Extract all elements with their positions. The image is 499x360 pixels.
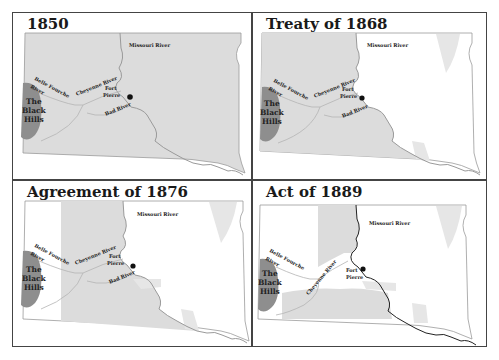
south-dakota-map — [252, 13, 489, 180]
panel-title: Act of 1889 — [266, 183, 362, 201]
label-fort: Fort — [346, 267, 358, 273]
map-panel-agreement-1876: Agreement of 1876 Missouri River Belle F… — [13, 181, 250, 348]
panel-title: 1850 — [27, 15, 69, 33]
fort-pierre-marker — [127, 94, 133, 100]
fort-pierre-marker — [360, 266, 365, 271]
label-fort: Fort — [109, 253, 121, 259]
bh-line-2: Black — [258, 278, 282, 287]
bh-line-3: Hills — [260, 117, 284, 126]
panel-title: Treaty of 1868 — [266, 15, 388, 33]
bh-line-3: Hills — [22, 283, 46, 292]
bh-line-1: The — [260, 99, 284, 108]
bh-line-2: Black — [260, 108, 284, 117]
label-missouri-river: Missouri River — [129, 42, 170, 48]
south-dakota-map — [13, 13, 250, 180]
label-pierre: Pierre — [103, 92, 120, 98]
bh-line-1: The — [22, 265, 46, 274]
label-missouri-river: Missouri River — [367, 42, 408, 48]
map-panel-treaty-1868: Treaty of 1868 Missouri River Belle Four… — [252, 13, 489, 180]
label-pierre: Pierre — [107, 260, 124, 266]
label-fort: Fort — [342, 86, 354, 92]
label-pierre: Pierre — [340, 93, 357, 99]
bh-line-2: Black — [22, 106, 46, 115]
fort-pierre-marker — [359, 95, 364, 100]
bh-line-1: The — [22, 97, 46, 106]
bh-line-2: Black — [22, 274, 46, 283]
map-panel-1850: 1850 Missouri River Belle Fourche River … — [13, 13, 250, 180]
label-missouri-river: Missouri River — [369, 220, 410, 226]
label-fort: Fort — [105, 85, 117, 91]
panel-title: Agreement of 1876 — [27, 183, 188, 201]
bh-line-3: Hills — [22, 115, 46, 124]
label-missouri-river: Missouri River — [137, 211, 178, 217]
south-dakota-map — [13, 181, 250, 348]
label-black-hills: The Black Hills — [22, 265, 46, 292]
bh-line-1: The — [258, 269, 282, 278]
label-black-hills: The Black Hills — [260, 99, 284, 126]
label-black-hills: The Black Hills — [258, 269, 282, 296]
bh-line-3: Hills — [258, 287, 282, 296]
south-dakota-map — [252, 181, 489, 348]
map-panel-act-1889: Act of 1889 Missouri River Belle Fourche… — [252, 181, 489, 348]
label-pierre: Pierre — [346, 274, 363, 280]
label-black-hills: The Black Hills — [22, 97, 46, 124]
